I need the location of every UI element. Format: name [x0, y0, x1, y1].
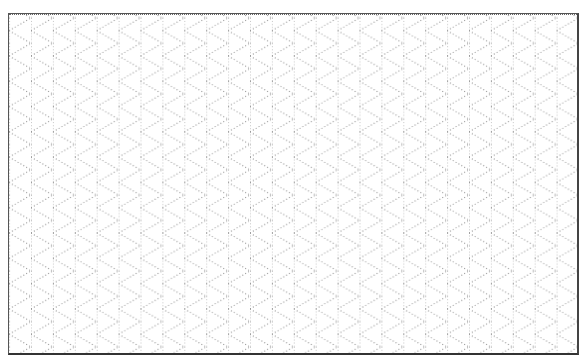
- grid-frame: [8, 13, 579, 355]
- frame-top-edge: [9, 14, 577, 17]
- grid-pattern-fill: [9, 14, 579, 355]
- isometric-grid: [9, 14, 579, 355]
- grid-paper-canvas: Blank isometric (triangular) dotted grid…: [0, 0, 588, 360]
